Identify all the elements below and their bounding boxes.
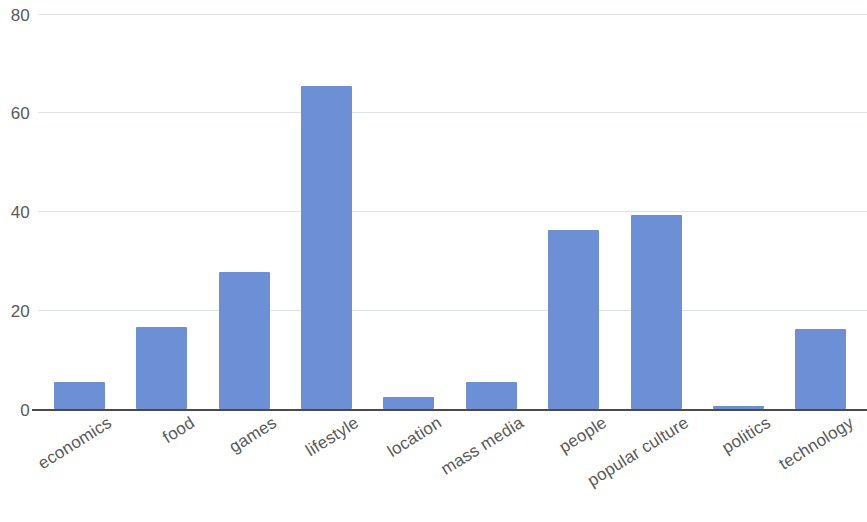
x-axis-tick-label: economics bbox=[35, 413, 116, 474]
bar bbox=[548, 230, 599, 409]
bar bbox=[219, 272, 270, 409]
plot-area: 80 60 40 20 0 bbox=[0, 0, 867, 415]
x-axis-labels: economicsfoodgameslifestylelocationmass … bbox=[0, 413, 867, 522]
x-axis-tick-label: games bbox=[226, 413, 281, 458]
x-axis-tick-label: politics bbox=[719, 413, 775, 458]
x-axis-tick-label: people bbox=[555, 413, 610, 458]
bar bbox=[466, 382, 517, 409]
bar bbox=[795, 329, 846, 409]
bar bbox=[301, 86, 352, 409]
x-axis-tick-label: lifestyle bbox=[303, 413, 363, 461]
x-axis-tick-label: mass media bbox=[438, 413, 528, 480]
x-axis-line bbox=[32, 409, 867, 411]
x-axis-tick-label: location bbox=[384, 413, 446, 462]
x-axis-tick-label: technology bbox=[775, 413, 857, 475]
bars-container bbox=[0, 0, 867, 411]
bar-chart: 80 60 40 20 0 economicsfoodgameslifestyl… bbox=[0, 0, 867, 522]
bar bbox=[383, 397, 434, 409]
bar bbox=[631, 215, 682, 409]
bar bbox=[54, 382, 105, 409]
bar bbox=[136, 327, 187, 409]
x-axis-tick-label: food bbox=[159, 413, 198, 448]
